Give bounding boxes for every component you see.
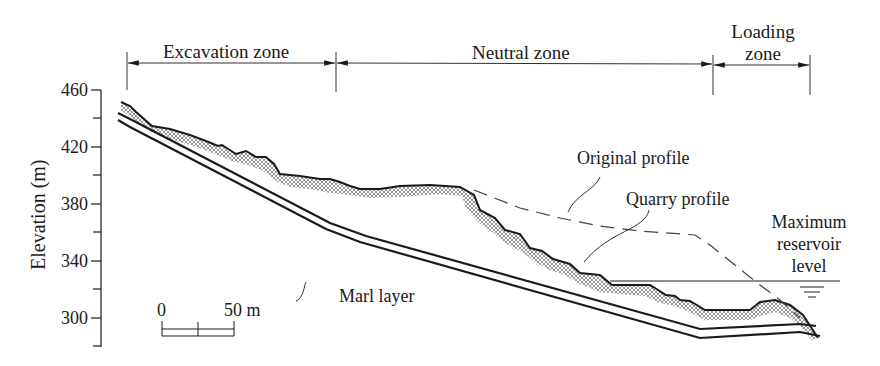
max-reservoir-label-line1: Maximum xyxy=(768,213,850,231)
y-tick-420: 420 xyxy=(48,138,88,156)
y-tick-380: 380 xyxy=(48,195,88,213)
scale-bar xyxy=(162,321,234,336)
quarry-profile-label: Quarry profile xyxy=(626,190,729,208)
y-tick-300: 300 xyxy=(48,309,88,327)
y-axis xyxy=(91,90,101,347)
scale-bar-end-label: 50 m xyxy=(224,301,261,319)
y-axis-label: Elevation (m) xyxy=(28,159,48,270)
original-profile-line xyxy=(474,190,800,318)
max-reservoir-label-line2: reservoir xyxy=(768,235,850,253)
max-reservoir-label-line3: level xyxy=(768,257,850,275)
loading-zone-label-line1: Loading xyxy=(728,22,798,41)
excavation-zone-label: Excavation zone xyxy=(163,42,289,61)
scale-bar-start-label: 0 xyxy=(157,301,166,319)
y-tick-340: 340 xyxy=(48,252,88,270)
marl-layer-label: Marl layer xyxy=(339,287,414,305)
neutral-zone-label: Neutral zone xyxy=(472,43,570,62)
loading-zone-label-line2: zone xyxy=(728,44,798,63)
original-profile-label: Original profile xyxy=(577,149,689,167)
y-tick-460: 460 xyxy=(48,81,88,99)
